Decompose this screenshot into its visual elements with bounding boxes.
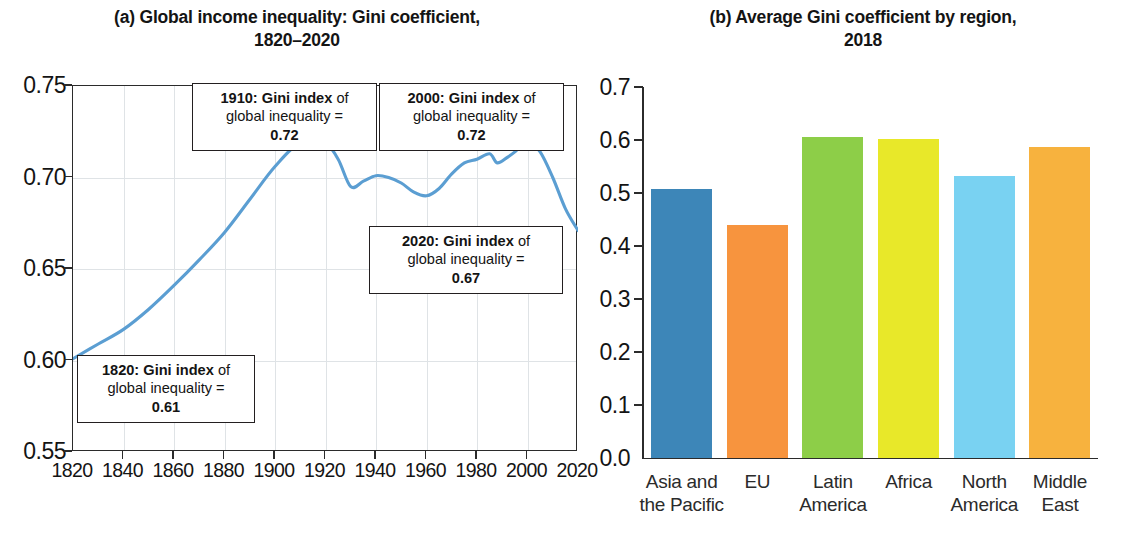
panel-b-y-tick bbox=[634, 351, 643, 353]
category-label-line: Africa bbox=[885, 470, 932, 493]
panel-a-x-tick bbox=[172, 451, 174, 459]
panel-a-x-tick-label: 1940 bbox=[355, 459, 396, 482]
panel-b-title-line1: (b) Average Gini coefficient by region, bbox=[594, 6, 1132, 29]
category-label-line: America bbox=[951, 493, 1019, 516]
annotation-line-1: 2000: Gini index of bbox=[386, 89, 557, 107]
panel-b-category-label: Africa bbox=[885, 470, 932, 493]
annotation-value: 0.72 bbox=[199, 126, 370, 144]
panel-b-bar-chart: (b) Average Gini coefficient by region, … bbox=[594, 0, 1132, 534]
bar-latin-america[interactable] bbox=[802, 137, 863, 458]
bar-eu[interactable] bbox=[727, 225, 788, 458]
panel-a-y-tick-label: 0.60 bbox=[0, 346, 66, 373]
category-label-line: Latin bbox=[799, 470, 867, 493]
annotation-line-2: global inequality = bbox=[84, 379, 248, 397]
category-label-line: America bbox=[799, 493, 867, 516]
panel-a-y-tick bbox=[64, 267, 72, 269]
panel-b-y-tick bbox=[634, 245, 643, 247]
panel-a-x-tick bbox=[425, 451, 427, 459]
panel-a-x-tick-label: 1820 bbox=[52, 459, 93, 482]
annotation-2020: 2020: Gini index ofglobal inequality =0.… bbox=[369, 226, 563, 294]
panel-b-y-tick bbox=[634, 139, 643, 141]
panel-b-y-tick-label: 0.3 bbox=[590, 286, 630, 313]
bar-africa[interactable] bbox=[878, 139, 939, 458]
panel-a-x-tick bbox=[122, 451, 124, 459]
annotation-2000: 2000: Gini index ofglobal inequality =0.… bbox=[379, 83, 564, 151]
annotation-line-1: 2020: Gini index of bbox=[376, 232, 556, 250]
panel-a-y-tick-label: 0.65 bbox=[0, 255, 66, 282]
annotation-line-1: 1910: Gini index of bbox=[199, 89, 370, 107]
panel-a-title: (a) Global income inequality: Gini coeff… bbox=[0, 6, 594, 52]
figure-root: (a) Global income inequality: Gini coeff… bbox=[0, 0, 1132, 534]
annotation-value: 0.72 bbox=[386, 126, 557, 144]
annotation-1820: 1820: Gini index ofglobal inequality =0.… bbox=[77, 355, 255, 423]
panel-b-y-tick-label: 0.4 bbox=[590, 233, 630, 260]
panel-a-y-tick-label: 0.70 bbox=[0, 163, 66, 190]
bar-north-america[interactable] bbox=[954, 176, 1015, 458]
annotation-value: 0.61 bbox=[84, 398, 248, 416]
panel-b-category-label: MiddleEast bbox=[1033, 470, 1087, 516]
annotation-line-1: 1820: Gini index of bbox=[84, 361, 248, 379]
category-label-line: EU bbox=[744, 470, 770, 493]
panel-b-y-tick bbox=[634, 192, 643, 194]
panel-a-x-tick-label: 1920 bbox=[304, 459, 345, 482]
panel-a-line-chart: (a) Global income inequality: Gini coeff… bbox=[0, 0, 594, 534]
panel-b-category-label: LatinAmerica bbox=[799, 470, 867, 516]
panel-b-y-tick-label: 0.1 bbox=[590, 392, 630, 419]
panel-a-x-tick bbox=[475, 451, 477, 459]
panel-a-y-tick bbox=[64, 84, 72, 86]
annotation-line-2: global inequality = bbox=[376, 250, 556, 268]
panel-a-y-tick bbox=[64, 450, 72, 452]
annotation-1910: 1910: Gini index ofglobal inequality =0.… bbox=[192, 83, 377, 151]
panel-a-x-tick-label: 2000 bbox=[506, 459, 547, 482]
bar-asia-and-the-pacific[interactable] bbox=[651, 189, 712, 458]
panel-a-title-line2: 1820–2020 bbox=[0, 29, 594, 52]
panel-a-x-tick bbox=[273, 451, 275, 459]
panel-a-x-tick-label: 1880 bbox=[203, 459, 244, 482]
panel-b-y-tick bbox=[634, 86, 643, 88]
panel-a-x-tick bbox=[324, 451, 326, 459]
panel-b-y-tick bbox=[634, 298, 643, 300]
annotation-line-2: global inequality = bbox=[386, 107, 557, 125]
panel-b-y-tick-label: 0.2 bbox=[590, 339, 630, 366]
category-label-line: the Pacific bbox=[639, 493, 723, 516]
category-label-line: Asia and bbox=[639, 470, 723, 493]
category-label-line: Middle bbox=[1033, 470, 1087, 493]
panel-b-y-tick-label: 0.7 bbox=[590, 74, 630, 101]
panel-a-x-tick-label: 1980 bbox=[456, 459, 497, 482]
panel-a-x-tick-label: 1960 bbox=[405, 459, 446, 482]
panel-a-y-tick bbox=[64, 359, 72, 361]
panel-b-y-tick bbox=[634, 404, 643, 406]
annotation-line-2: global inequality = bbox=[199, 107, 370, 125]
annotation-value: 0.67 bbox=[376, 269, 556, 287]
panel-a-x-tick-label: 1840 bbox=[102, 459, 143, 482]
panel-a-y-tick-label: 0.75 bbox=[0, 72, 66, 99]
panel-a-x-tick bbox=[526, 451, 528, 459]
panel-a-x-tick bbox=[374, 451, 376, 459]
panel-b-title-line2: 2018 bbox=[594, 29, 1132, 52]
category-label-line: North bbox=[951, 470, 1019, 493]
bar-middle-east[interactable] bbox=[1029, 147, 1090, 458]
category-label-line: East bbox=[1033, 493, 1087, 516]
panel-b-bars bbox=[644, 87, 1098, 458]
panel-b-y-tick-label: 0.5 bbox=[590, 180, 630, 207]
panel-b-y-tick-label: 0.0 bbox=[590, 445, 630, 472]
panel-a-title-line1: (a) Global income inequality: Gini coeff… bbox=[0, 6, 594, 29]
panel-b-category-label: NorthAmerica bbox=[951, 470, 1019, 516]
panel-a-x-tick-label: 1900 bbox=[254, 459, 295, 482]
panel-b-y-tick-label: 0.6 bbox=[590, 127, 630, 154]
panel-b-category-label: EU bbox=[744, 470, 770, 493]
panel-b-title: (b) Average Gini coefficient by region, … bbox=[594, 6, 1132, 52]
panel-b-category-label: Asia andthe Pacific bbox=[639, 470, 723, 516]
panel-a-x-tick-label: 1860 bbox=[153, 459, 194, 482]
panel-a-x-tick bbox=[223, 451, 225, 459]
panel-a-y-tick bbox=[64, 176, 72, 178]
